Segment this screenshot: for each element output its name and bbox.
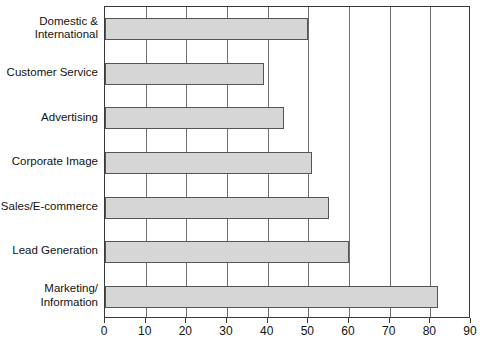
x-tick-mark [104, 318, 105, 323]
bar [105, 197, 329, 219]
x-tick-label: 90 [450, 324, 490, 338]
plot-area [104, 6, 470, 318]
x-tick-mark [185, 318, 186, 323]
bar-row [105, 274, 469, 319]
y-axis-label: Lead Generation [0, 244, 98, 258]
bar-row [105, 230, 469, 275]
bar-chart: Domestic & InternationalCustomer Service… [0, 0, 490, 354]
y-axis-label: Domestic & International [0, 15, 98, 42]
x-tick-mark [145, 318, 146, 323]
bar [105, 107, 284, 129]
x-tick-label: 40 [247, 324, 287, 338]
x-tick-mark [348, 318, 349, 323]
x-tick-label: 70 [369, 324, 409, 338]
x-tick-mark [470, 318, 471, 323]
x-tick-mark [389, 318, 390, 323]
x-tick-label: 0 [84, 324, 124, 338]
bar-row [105, 185, 469, 230]
bar [105, 286, 438, 308]
x-tick-label: 20 [165, 324, 205, 338]
x-tick-mark [226, 318, 227, 323]
y-axis-label: Sales/E-commerce [0, 200, 98, 214]
y-axis-label: Marketing/ Information [0, 282, 98, 309]
bar [105, 18, 308, 40]
x-tick-label: 60 [328, 324, 368, 338]
y-axis-label: Customer Service [0, 66, 98, 80]
y-axis-label: Corporate Image [0, 155, 98, 169]
bar-row [105, 52, 469, 97]
x-tick-mark [307, 318, 308, 323]
x-tick-label: 30 [206, 324, 246, 338]
bar [105, 63, 264, 85]
bar-row [105, 7, 469, 52]
bar [105, 152, 312, 174]
y-axis-label: Advertising [0, 111, 98, 125]
x-tick-label: 50 [287, 324, 327, 338]
bar [105, 241, 349, 263]
bar-row [105, 141, 469, 186]
x-tick-mark [267, 318, 268, 323]
x-tick-label: 80 [409, 324, 449, 338]
bar-row [105, 96, 469, 141]
x-tick-label: 10 [125, 324, 165, 338]
x-tick-mark [429, 318, 430, 323]
